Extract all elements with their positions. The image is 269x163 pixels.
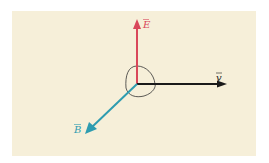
vector-b [85, 84, 137, 134]
label-e: E [142, 19, 151, 30]
label-b: B [73, 124, 81, 135]
perpendicular-marker [126, 66, 155, 97]
vector-v [137, 81, 227, 88]
label-v: v [216, 72, 222, 83]
vector-diagram: E v B [0, 0, 269, 163]
vector-e [133, 19, 141, 84]
